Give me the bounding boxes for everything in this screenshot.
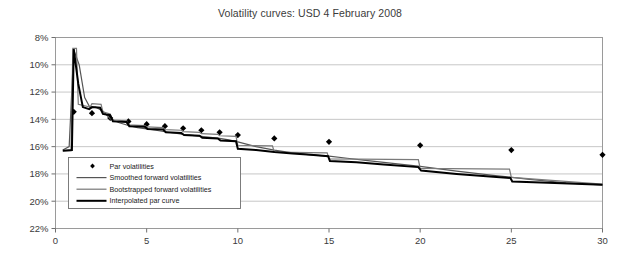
legend-label: Par volatilities <box>110 162 155 171</box>
x-tick-label: 30 <box>597 235 608 246</box>
par-volatility-marker <box>508 147 514 153</box>
y-tick-label: 14% <box>29 114 49 125</box>
y-tick-label: 16% <box>29 141 49 152</box>
x-tick-label: 20 <box>415 235 426 246</box>
y-tick-label: 18% <box>29 168 49 179</box>
y-axis-ticks: 22%20%18%16%14%12%10%8% <box>29 32 55 234</box>
par-volatility-marker <box>271 135 277 141</box>
legend-label: Bootstrapped forward volatilities <box>110 185 212 194</box>
y-tick-label: 20% <box>29 196 49 207</box>
y-tick-label: 12% <box>29 86 49 97</box>
y-tick-label: 10% <box>29 59 49 70</box>
par-volatility-marker <box>89 110 95 116</box>
chart-container: Volatility curves: USD 4 February 2008 2… <box>0 0 620 263</box>
x-tick-label: 15 <box>324 235 335 246</box>
legend-label: Smoothed forward volatilities <box>110 173 202 182</box>
x-tick-label: 5 <box>144 235 149 246</box>
legend-label: Interpolated par curve <box>110 196 180 205</box>
y-tick-label: 22% <box>29 223 49 234</box>
chart-legend: Par volatilitiesSmoothed forward volatil… <box>69 158 241 209</box>
x-axis-ticks: 051015202530 <box>53 229 608 246</box>
chart-plot: 22%20%18%16%14%12%10%8% 051015202530 Par… <box>0 0 620 263</box>
x-tick-label: 25 <box>506 235 517 246</box>
par-volatility-marker <box>162 123 168 129</box>
y-tick-label: 8% <box>35 32 49 43</box>
par-volatility-marker <box>599 152 605 158</box>
x-tick-label: 0 <box>53 235 58 246</box>
x-tick-label: 10 <box>233 235 244 246</box>
par-volatility-marker <box>326 139 332 145</box>
par-volatility-marker <box>417 142 423 148</box>
